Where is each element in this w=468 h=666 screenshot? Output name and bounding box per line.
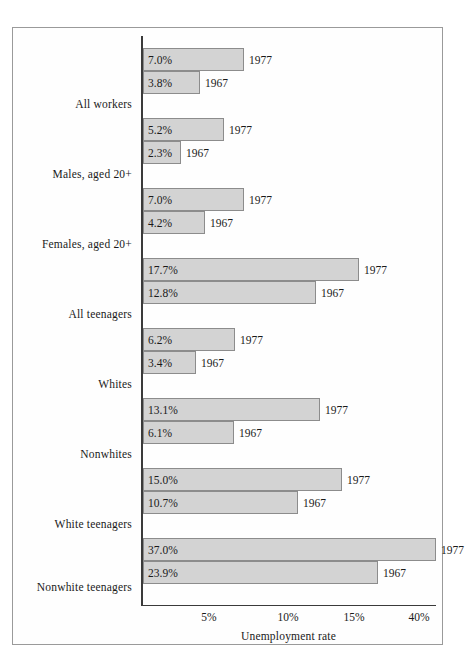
bar-series-label: 1967 [239,427,262,439]
x-axis-title: Unemployment rate [141,630,436,642]
x-axis-line [141,605,436,606]
bar-females-20plus-1977[interactable]: 7.0% 1977 [143,188,244,211]
bar-series-label: 1977 [249,54,272,66]
plot-area: All workers Males, aged 20+ Females, age… [13,28,444,646]
bar-series-label: 1977 [240,334,263,346]
category-label-whites: Whites [98,378,132,390]
bar-value-label: 15.0% [148,474,178,486]
category-label-females-20plus: Females, aged 20+ [42,238,132,250]
bar-all-teenagers-1967[interactable]: 12.8% 1967 [143,281,316,304]
bar-series-label: 1977 [325,404,348,416]
bar-whites-1977[interactable]: 6.2% 1977 [143,328,235,351]
bar-series-label: 1967 [303,497,326,509]
category-label-nonwhite-teenagers: Nonwhite teenagers [37,581,132,593]
bar-value-label: 7.0% [148,194,172,206]
bar-value-label: 5.2% [148,124,172,136]
category-label-all-teenagers: All teenagers [68,308,132,320]
category-label-males-20plus: Males, aged 20+ [53,168,132,180]
bar-series-label: 1967 [321,287,344,299]
bar-value-label: 3.8% [148,77,172,89]
bar-males-20plus-1977[interactable]: 5.2% 1977 [143,118,224,141]
chart-frame: All workers Males, aged 20+ Females, age… [12,27,443,645]
bar-series-label: 1967 [201,357,224,369]
bar-females-20plus-1967[interactable]: 4.2% 1967 [143,211,205,234]
bar-series-label: 1977 [347,474,370,486]
bar-series-label: 1967 [205,77,228,89]
bar-value-label: 13.1% [148,404,178,416]
category-label-white-teenagers: White teenagers [55,518,132,530]
category-label-nonwhites: Nonwhites [80,448,132,460]
bar-whites-1967[interactable]: 3.4% 1967 [143,351,196,374]
category-label-all-workers: All workers [75,98,132,110]
bar-all-workers-1977[interactable]: 7.0% 1977 [143,48,244,71]
bar-series-label: 1967 [186,147,209,159]
bar-all-teenagers-1977[interactable]: 17.7% 1977 [143,258,359,281]
bar-all-workers-1967[interactable]: 3.8% 1967 [143,71,200,94]
bar-value-label: 6.1% [148,427,172,439]
bar-value-label: 6.2% [148,334,172,346]
bar-series-label: 1977 [441,544,464,556]
x-tick-40pct: 40% [408,611,429,623]
bar-nonwhite-teenagers-1977[interactable]: 37.0% 1977 [143,538,436,561]
bar-value-label: 17.7% [148,264,178,276]
bar-series-label: 1967 [383,567,406,579]
bar-nonwhites-1967[interactable]: 6.1% 1967 [143,421,234,444]
bar-nonwhites-1977[interactable]: 13.1% 1977 [143,398,320,421]
bar-nonwhite-teenagers-1967[interactable]: 23.9% 1967 [143,561,378,584]
bar-series-label: 1977 [364,264,387,276]
x-tick-10pct: 10% [277,611,298,623]
bar-value-label: 7.0% [148,54,172,66]
bar-series-label: 1967 [210,217,233,229]
bar-white-teenagers-1967[interactable]: 10.7% 1967 [143,491,298,514]
bar-value-label: 2.3% [148,147,172,159]
bar-series-label: 1977 [249,194,272,206]
bar-value-label: 23.9% [148,567,178,579]
bar-value-label: 3.4% [148,357,172,369]
bar-value-label: 10.7% [148,497,178,509]
x-tick-15pct: 15% [343,611,364,623]
bar-value-label: 4.2% [148,217,172,229]
x-tick-5pct: 5% [201,611,216,623]
bar-value-label: 12.8% [148,287,178,299]
bar-males-20plus-1967[interactable]: 2.3% 1967 [143,141,181,164]
bar-value-label: 37.0% [148,544,178,556]
bar-series-label: 1977 [229,124,252,136]
bar-white-teenagers-1977[interactable]: 15.0% 1977 [143,468,342,491]
